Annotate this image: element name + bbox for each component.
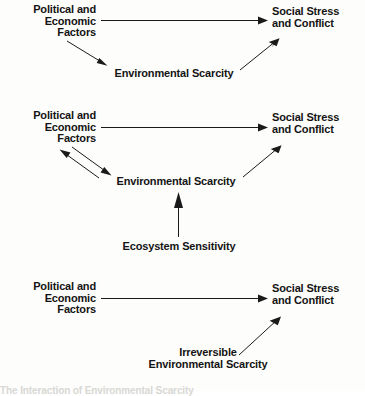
arrow-scarcity-to-factors bbox=[60, 149, 100, 178]
node-line: Political and bbox=[8, 110, 96, 122]
node-line: Factors bbox=[8, 27, 96, 39]
node-line: Social Stress bbox=[272, 6, 364, 18]
node-line: and Conflict bbox=[272, 124, 364, 136]
clipped-caption: The Interaction of Environmental Scarcit… bbox=[0, 385, 365, 396]
panel-1-middle-node: Environmental Scarcity bbox=[108, 68, 240, 80]
node-line: Social Stress bbox=[272, 283, 364, 295]
panel-3-middle-node: Irreversible Environmental Scarcity bbox=[140, 347, 276, 370]
arrow-factors-to-stress bbox=[101, 295, 268, 303]
node-line: Environmental Scarcity bbox=[140, 359, 276, 371]
arrow-factors-to-scarcity bbox=[67, 41, 108, 66]
arrow-ecosystem-to-scarcity bbox=[174, 192, 183, 237]
panel-2-driver-node: Ecosystem Sensitivity bbox=[112, 241, 246, 253]
arrow-factors-to-scarcity bbox=[72, 147, 112, 176]
node-line: and Conflict bbox=[272, 18, 364, 30]
arrow-factors-to-stress bbox=[101, 17, 268, 25]
node-line: Irreversible bbox=[140, 347, 276, 359]
node-line: Political and bbox=[8, 4, 96, 16]
node-line: Social Stress bbox=[272, 112, 364, 124]
panel-2-middle-node: Environmental Scarcity bbox=[108, 176, 244, 188]
node-line: Factors bbox=[8, 133, 96, 145]
panel-1-source-node: Political and Economic Factors bbox=[8, 4, 96, 39]
node-line: and Conflict bbox=[272, 295, 364, 307]
node-line: Factors bbox=[8, 304, 96, 316]
panel-1-arrows bbox=[67, 17, 280, 70]
panel-3-outcome-node: Social Stress and Conflict bbox=[272, 283, 364, 306]
node-line: Political and bbox=[8, 281, 96, 293]
panel-3-source-node: Political and Economic Factors bbox=[8, 281, 96, 316]
panel-2-source-node: Political and Economic Factors bbox=[8, 110, 96, 145]
arrow-factors-to-stress bbox=[101, 124, 268, 132]
panel-2-outcome-node: Social Stress and Conflict bbox=[272, 112, 364, 135]
panel-1-outcome-node: Social Stress and Conflict bbox=[272, 6, 364, 29]
arrow-scarcity-to-stress bbox=[240, 38, 280, 70]
arrow-scarcity-to-stress bbox=[243, 145, 282, 177]
